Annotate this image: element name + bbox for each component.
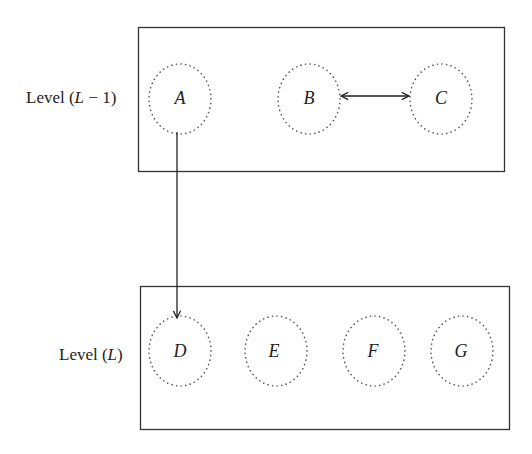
node-c-label: C [421, 88, 461, 108]
node-b-label: B [289, 88, 329, 108]
diagram-canvas [0, 0, 532, 454]
label-prefix: Level ( [26, 88, 75, 107]
level-upper-label: Level (L − 1) [26, 88, 116, 108]
label-prefix: Level ( [59, 345, 108, 364]
node-a-label: A [160, 88, 200, 108]
node-d-label: D [160, 341, 200, 361]
node-f-label: F [353, 341, 393, 361]
node-e-label: E [254, 341, 294, 361]
label-suffix: ) [117, 345, 123, 364]
label-var: L [108, 345, 117, 364]
level-lower-label: Level (L) [59, 345, 123, 365]
node-g-label: G [441, 341, 481, 361]
label-var: L [75, 88, 84, 107]
label-suffix: − 1) [84, 88, 116, 107]
